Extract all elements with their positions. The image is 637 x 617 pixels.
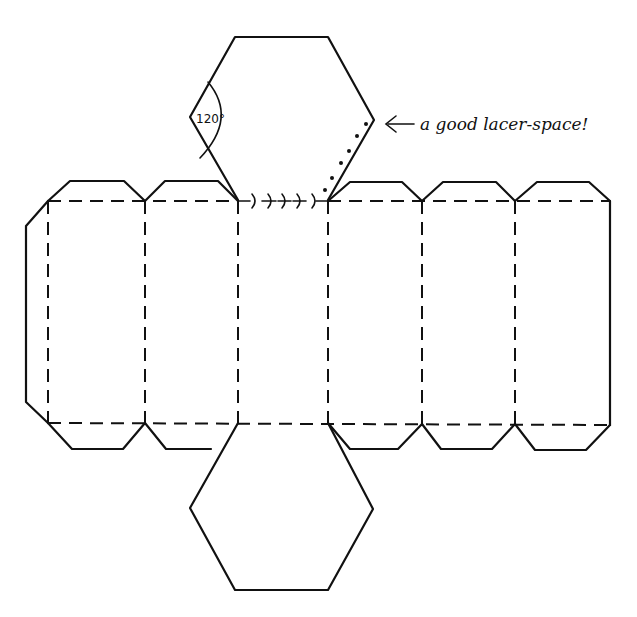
angle-label: 120° <box>196 112 225 126</box>
fold-lines <box>48 201 610 425</box>
annotation: a good lacer-space! <box>386 114 588 134</box>
bottom-hexagon <box>190 423 373 590</box>
left-tab <box>26 201 48 423</box>
annotation-text: a good lacer-space! <box>420 114 588 134</box>
lacing-stitches <box>238 194 328 208</box>
hexagonal-prism-net: 120° a good lacer-space! <box>0 0 637 617</box>
